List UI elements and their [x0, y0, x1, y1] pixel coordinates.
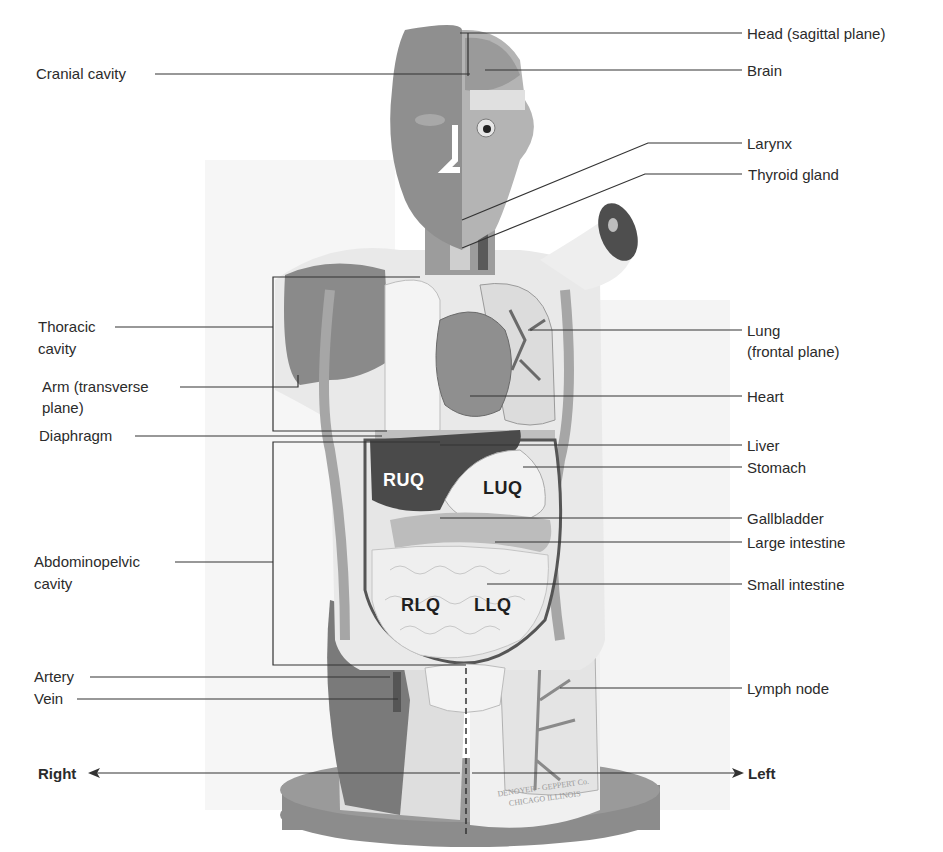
label-head-sagittal-plane: Head (sagittal plane) — [747, 24, 885, 43]
label-liver: Liver — [747, 436, 780, 455]
label-arm-transverse-plane: Arm (transverse plane) — [42, 377, 149, 417]
heart — [436, 312, 511, 416]
label-thyroid-gland: Thyroid gland — [748, 165, 839, 184]
head-muscle-face — [390, 25, 462, 250]
label-lung-frontal-plane: Lung (frontal plane) — [747, 321, 840, 361]
femoral-vessels — [393, 672, 401, 712]
label-large-intestine: Large intestine — [747, 533, 845, 552]
label-small-intestine: Small intestine — [747, 575, 845, 594]
anatomy-diagram: DENOYER - GEPPERT Co. CHICAGO ILLINOIS R… — [0, 0, 943, 852]
label-brain: Brain — [747, 61, 782, 80]
right-arm-muscle — [284, 264, 390, 385]
label-diaphragm: Diaphragm — [39, 426, 112, 445]
label-stomach: Stomach — [747, 458, 806, 477]
label-heart: Heart — [747, 387, 784, 406]
label-direction-left: Left — [748, 764, 776, 783]
quadrant-luq: LUQ — [483, 478, 523, 499]
label-thoracic-cavity: Thoracic cavity — [38, 317, 96, 358]
quadrant-rlq: RLQ — [401, 595, 441, 616]
label-cranial-cavity: Cranial cavity — [36, 64, 126, 83]
label-direction-right: Right — [38, 764, 76, 783]
label-abdominopelvic-cavity: Abdominopelvic cavity — [34, 552, 140, 593]
label-artery: Artery — [34, 667, 74, 686]
label-larynx: Larynx — [747, 134, 792, 153]
torso-model-illustration — [0, 0, 943, 852]
quadrant-ruq: RUQ — [383, 470, 425, 491]
pelvic-cover — [425, 664, 505, 713]
right-lung — [385, 280, 440, 441]
label-vein: Vein — [34, 689, 63, 708]
label-gallbladder: Gallbladder — [747, 509, 824, 528]
quadrant-llq: LLQ — [474, 595, 512, 616]
label-lymph-node: Lymph node — [747, 679, 829, 698]
